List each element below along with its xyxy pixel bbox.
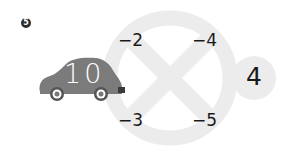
wheel-icon — [94, 87, 108, 101]
operation-bottom-right: −5 — [192, 112, 217, 129]
result-value: 4 — [241, 64, 267, 89]
start-value: 10 — [64, 60, 104, 87]
car-bumper — [118, 87, 125, 93]
diagram-graphics — [0, 0, 282, 155]
operation-bottom-left: −3 — [118, 112, 143, 129]
wheel-icon — [50, 87, 64, 101]
operation-top-left: −2 — [118, 32, 143, 49]
operation-top-right: −4 — [192, 32, 217, 49]
